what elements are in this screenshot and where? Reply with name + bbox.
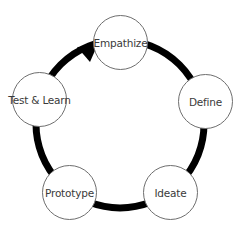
node-label-ideate: Ideate bbox=[154, 187, 186, 199]
node-define: Define bbox=[178, 74, 233, 129]
node-label-define: Define bbox=[189, 96, 222, 108]
node-prototype: Prototype bbox=[42, 165, 97, 220]
node-label-test-learn: Test & Learn bbox=[8, 94, 71, 106]
design-thinking-diagram: Empathize Define Ideate Prototype Test &… bbox=[0, 0, 241, 230]
node-empathize: Empathize bbox=[93, 15, 148, 70]
node-label-prototype: Prototype bbox=[45, 187, 94, 199]
node-label-empathize: Empathize bbox=[94, 37, 148, 49]
node-test-learn: Test & Learn bbox=[12, 72, 67, 127]
node-ideate: Ideate bbox=[143, 165, 198, 220]
